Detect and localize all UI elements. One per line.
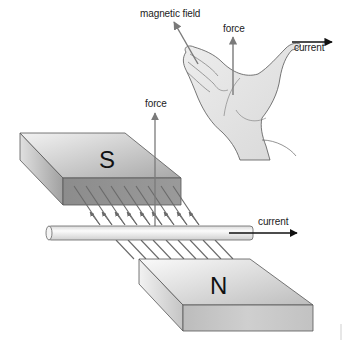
apparatus-force-label: force <box>145 98 167 109</box>
conductor-rod <box>46 226 253 240</box>
diagram-graphics <box>0 0 342 350</box>
north-pole-label: N <box>210 274 227 298</box>
diagram: magnetic field force current force curre… <box>0 0 342 350</box>
hand-current-label: current <box>294 42 324 53</box>
left-hand-illustration <box>183 43 300 160</box>
apparatus-current-label: current <box>258 216 288 227</box>
south-pole-label: S <box>99 148 115 172</box>
hand-force-label: force <box>223 23 245 34</box>
hand-magnetic-field-label: magnetic field <box>140 8 200 19</box>
magnetic-field-lines-lower <box>116 240 233 259</box>
